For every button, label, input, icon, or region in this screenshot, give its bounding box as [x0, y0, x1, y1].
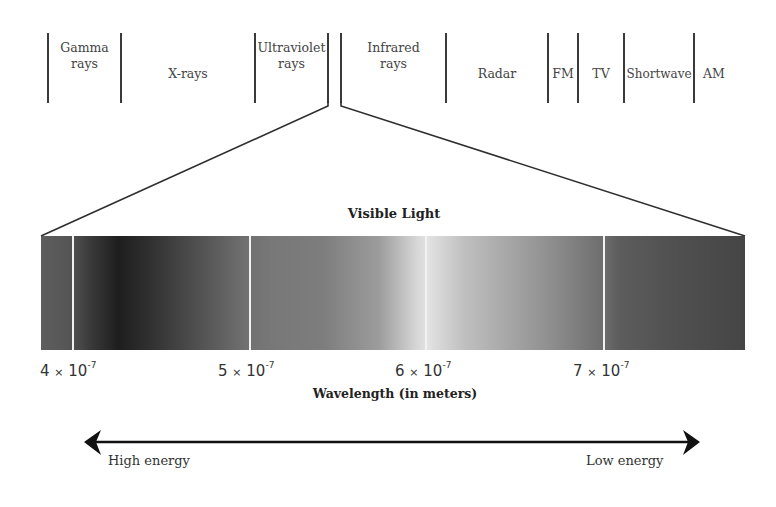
wavelength-axis-title: Wavelength (in meters) [290, 386, 500, 401]
visible-light-spectrum-bar [41, 236, 745, 350]
spectrum-separator [72, 236, 74, 350]
low-energy-label: Low energy [586, 453, 663, 468]
spectrum-separator [603, 236, 605, 350]
high-energy-label: High energy [108, 453, 190, 468]
tick-mantissa: 4 [40, 362, 50, 380]
spectrum-separator [425, 236, 427, 350]
tick-base: 10 [601, 362, 620, 380]
tick-5e-7: 5 × 10-7 [218, 362, 274, 380]
tick-exponent: -7 [265, 360, 274, 370]
tick-times: × [409, 366, 418, 379]
tick-base: 10 [423, 362, 442, 380]
tick-7e-7: 7 × 10-7 [573, 362, 629, 380]
spectrum-separator [249, 236, 251, 350]
visible-light-title: Visible Light [300, 206, 488, 221]
tick-mantissa: 6 [395, 362, 405, 380]
tick-times: × [232, 366, 241, 379]
tick-4e-7: 4 × 10-7 [40, 362, 96, 380]
tick-times: × [54, 366, 63, 379]
tick-exponent: -7 [620, 360, 629, 370]
tick-base: 10 [68, 362, 87, 380]
tick-exponent: -7 [442, 360, 451, 370]
tick-base: 10 [246, 362, 265, 380]
tick-times: × [587, 366, 596, 379]
tick-mantissa: 5 [218, 362, 228, 380]
tick-6e-7: 6 × 10-7 [395, 362, 451, 380]
tick-mantissa: 7 [573, 362, 583, 380]
tick-exponent: -7 [87, 360, 96, 370]
